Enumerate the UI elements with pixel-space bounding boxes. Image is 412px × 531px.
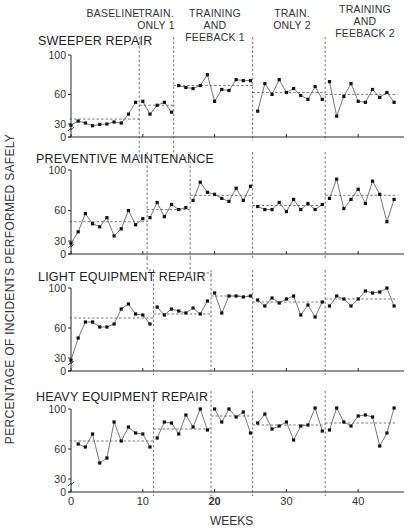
data-point — [191, 425, 194, 428]
data-point — [191, 306, 194, 309]
data-point — [163, 313, 166, 316]
data-point — [170, 421, 173, 424]
data-point — [184, 413, 187, 416]
data-line — [329, 82, 394, 117]
data-point — [306, 202, 309, 205]
data-point — [263, 208, 266, 211]
data-point — [306, 98, 309, 101]
data-point — [69, 242, 72, 245]
data-point — [278, 78, 281, 81]
data-point — [141, 100, 144, 103]
data-point — [120, 121, 123, 124]
multi-panel-line-chart: 1006030010060300100603001006030001020304… — [0, 0, 412, 531]
data-point — [156, 436, 159, 439]
data-point — [242, 410, 245, 413]
data-point — [328, 80, 331, 83]
data-point — [91, 432, 94, 435]
data-point — [105, 216, 108, 219]
data-point — [378, 444, 381, 447]
data-point — [120, 307, 123, 310]
data-point — [314, 208, 317, 211]
data-point — [156, 201, 159, 204]
phase-step-connector — [190, 258, 211, 278]
data-point — [170, 111, 173, 114]
data-point — [364, 289, 367, 292]
x-tick-label: 0 — [68, 495, 74, 507]
data-point — [299, 313, 302, 316]
data-point — [156, 305, 159, 308]
y-tick-label: 60 — [54, 443, 66, 455]
data-point — [163, 101, 166, 104]
phase-step-connector — [139, 141, 147, 158]
data-point — [357, 297, 360, 300]
data-line — [215, 293, 251, 313]
data-point — [191, 87, 194, 90]
data-point — [235, 78, 238, 81]
data-line — [71, 304, 150, 360]
y-tick-label: 30 — [54, 473, 66, 485]
data-line — [215, 409, 251, 433]
data-point — [148, 322, 151, 325]
data-point — [91, 222, 94, 225]
data-point — [357, 100, 360, 103]
data-point — [335, 178, 338, 181]
data-point — [98, 461, 101, 464]
data-point — [199, 407, 202, 410]
data-point — [270, 427, 273, 430]
data-point — [213, 100, 216, 103]
phase-step-connector — [174, 141, 191, 158]
data-point — [328, 197, 331, 200]
data-point — [98, 123, 101, 126]
data-point — [278, 301, 281, 304]
data-point — [134, 312, 137, 315]
data-point — [206, 299, 209, 302]
data-point — [342, 207, 345, 210]
data-point — [134, 431, 137, 434]
data-line — [258, 408, 323, 440]
data-point — [227, 294, 230, 297]
data-point — [256, 110, 259, 113]
data-point — [349, 198, 352, 201]
data-point — [84, 212, 87, 215]
data-point — [105, 325, 108, 328]
data-point — [77, 442, 80, 445]
data-point — [134, 223, 137, 226]
data-point — [227, 407, 230, 410]
data-point — [256, 421, 259, 424]
data-point — [177, 208, 180, 211]
data-point — [213, 291, 216, 294]
data-point — [213, 193, 216, 196]
data-point — [84, 320, 87, 323]
data-point — [342, 420, 345, 423]
data-point — [177, 432, 180, 435]
data-point — [349, 424, 352, 427]
data-line — [329, 179, 394, 222]
data-point — [141, 217, 144, 220]
data-point — [177, 309, 180, 312]
data-point — [378, 290, 381, 293]
data-point — [371, 415, 374, 418]
data-line — [150, 202, 186, 217]
data-point — [242, 295, 245, 298]
data-point — [105, 122, 108, 125]
data-point — [263, 304, 266, 307]
data-point — [263, 82, 266, 85]
data-point — [184, 86, 187, 89]
data-point — [148, 113, 151, 116]
data-point — [256, 205, 259, 208]
data-point — [393, 406, 396, 409]
data-point — [378, 96, 381, 99]
data-point — [385, 220, 388, 223]
data-point — [285, 420, 288, 423]
data-point — [328, 428, 331, 431]
data-point — [242, 79, 245, 82]
data-point — [98, 225, 101, 228]
data-point — [184, 206, 187, 209]
data-point — [170, 307, 173, 310]
data-point — [127, 425, 130, 428]
data-point — [256, 298, 259, 301]
data-line — [71, 102, 136, 125]
data-point — [278, 424, 281, 427]
data-point — [378, 193, 381, 196]
data-point — [335, 115, 338, 118]
